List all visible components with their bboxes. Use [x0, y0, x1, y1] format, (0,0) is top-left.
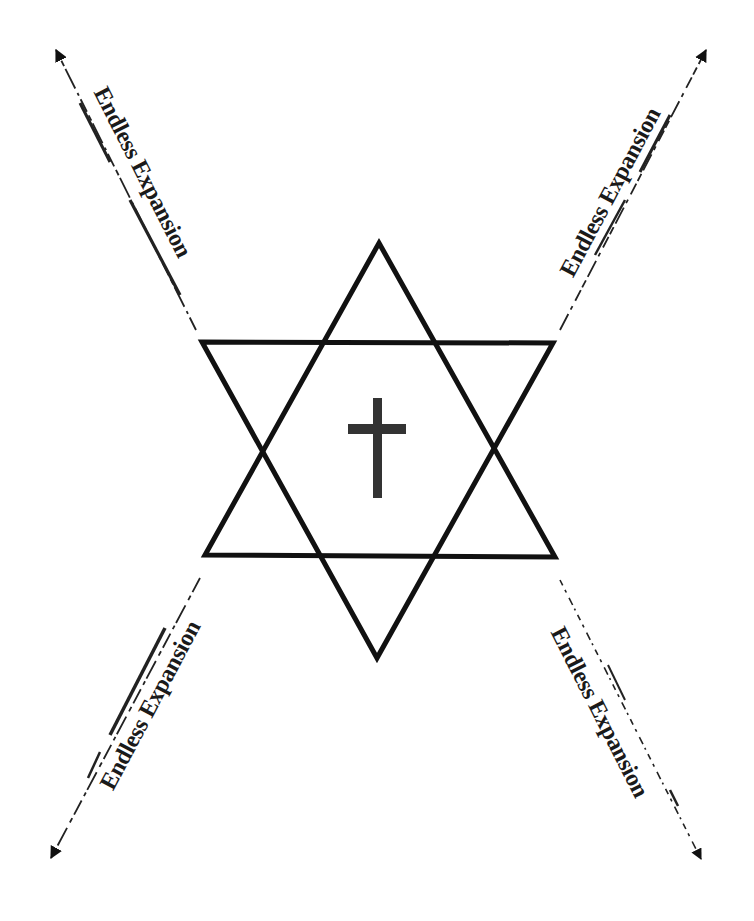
- downward-triangle: [202, 342, 553, 658]
- arrow-bottom-left: [51, 578, 200, 858]
- smudge-bottom-right: [608, 665, 625, 700]
- smudge-bottom-right-2: [670, 790, 678, 806]
- arrow-top-right: [560, 50, 706, 330]
- cross-horizontal-bar: [348, 424, 406, 434]
- cross-icon: [348, 398, 406, 498]
- cross-vertical-bar: [373, 398, 382, 498]
- arrow-bottom-right: [560, 580, 701, 859]
